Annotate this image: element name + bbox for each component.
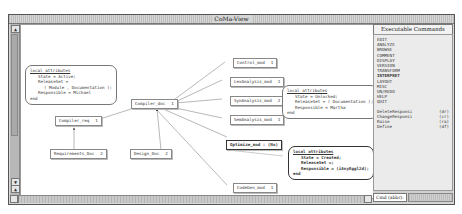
attributes-box-synanalysis[interactable]: local attributes State = Unlocked; Relea… <box>282 85 378 119</box>
node-count: 1 <box>278 79 281 84</box>
arrow-up-icon: ▲ <box>14 186 17 192</box>
attributes-box-optimize[interactable]: local attributes State = Created; Releas… <box>288 146 374 180</box>
node-label: CodeGen_mod <box>237 185 265 190</box>
node-count: 1 <box>171 101 174 106</box>
coma-view-window: CoMa-View ▲ ▼ ▲ <box>8 14 455 205</box>
attribute-responsible: Responsible = (iAnyEggl2d); <box>293 166 369 172</box>
node-label: Control_mod <box>237 60 265 65</box>
node-count: 1 <box>271 185 274 190</box>
title-bar[interactable]: CoMa-View <box>9 15 454 24</box>
attributes-end: end <box>30 96 112 102</box>
attribute-releaseset: ReleaseSet = ( Documentation ); <box>287 99 373 105</box>
command-abbr-label: Cmd (abbr): <box>373 193 407 202</box>
node-count: 2 <box>165 151 168 156</box>
node-count: 1 <box>271 60 274 65</box>
node-label: Design_Doc <box>134 151 159 156</box>
vertical-scrollbar[interactable]: ▲ ▼ ▲ <box>10 24 20 196</box>
node-label: LexAnalysis_mod <box>234 79 272 84</box>
arrow-up-icon: ▲ <box>14 26 17 32</box>
node-count: 2 <box>278 98 281 103</box>
node-lexanalysis-mod[interactable]: LexAnalysis_mod1 <box>230 77 284 87</box>
node-compiler-req[interactable]: Compiler_req1 <box>55 116 102 126</box>
command-label: Define <box>377 124 392 129</box>
node-semanalysis-mod[interactable]: SemAnalysis_mod1 <box>230 115 284 125</box>
attributes-end: end <box>287 110 373 116</box>
node-requirements-doc[interactable]: Requirements_Doc2 <box>50 149 107 159</box>
node-count: : (No) <box>263 142 278 147</box>
scroll-corner-button[interactable] <box>10 195 18 203</box>
node-label: SemAnalysis_mod <box>234 117 272 122</box>
command-abbr: (df) <box>439 124 449 129</box>
node-design-doc[interactable]: Design_Doc2 <box>130 149 172 159</box>
node-optimize-mod[interactable]: Optimize_mod : (No) <box>226 140 282 150</box>
command-abbr-field: Cmd (abbr): <box>373 193 453 202</box>
command-abbr-input[interactable] <box>408 193 453 202</box>
node-label: SynAnalysis_mod <box>234 98 272 103</box>
node-control-mod[interactable]: Control_mod1 <box>233 58 277 68</box>
vertical-scroll-thumb[interactable] <box>11 34 18 136</box>
command-define[interactable]: Define (df) <box>377 124 449 129</box>
horizontal-scrollbar[interactable] <box>19 195 372 203</box>
node-label: Compiler_req <box>59 118 89 123</box>
attributes-end: end <box>293 171 369 177</box>
node-count: 2 <box>100 151 103 156</box>
scroll-right-button[interactable] <box>364 195 372 203</box>
node-codegen-mod[interactable]: CodeGen_mod1 <box>233 183 277 193</box>
window-title: CoMa-View <box>211 15 251 23</box>
node-label: Optimize_mod <box>230 142 260 147</box>
node-compiler-doc[interactable]: Compiler_doc1 <box>131 99 178 109</box>
node-label: Compiler_doc <box>135 101 165 106</box>
node-count: 1 <box>95 118 98 123</box>
node-count: 1 <box>278 117 281 122</box>
node-label: Requirements_Doc <box>54 151 94 156</box>
attributes-box-compiler-doc[interactable]: local attributes State = Active; Release… <box>25 65 117 105</box>
commands-list: EDIT ANALYZE BROWSE COMMENT DISPLAY VERS… <box>373 34 453 191</box>
scroll-page-button[interactable]: ▲ <box>11 185 20 193</box>
scroll-up-button[interactable]: ▲ <box>11 25 20 33</box>
node-synanalysis-mod[interactable]: SynAnalysis_mod2 <box>230 96 284 106</box>
graph-canvas[interactable]: local attributes State = Active; Release… <box>20 24 374 199</box>
executable-commands-panel: Executable Commands EDIT ANALYZE BROWSE … <box>373 24 453 203</box>
